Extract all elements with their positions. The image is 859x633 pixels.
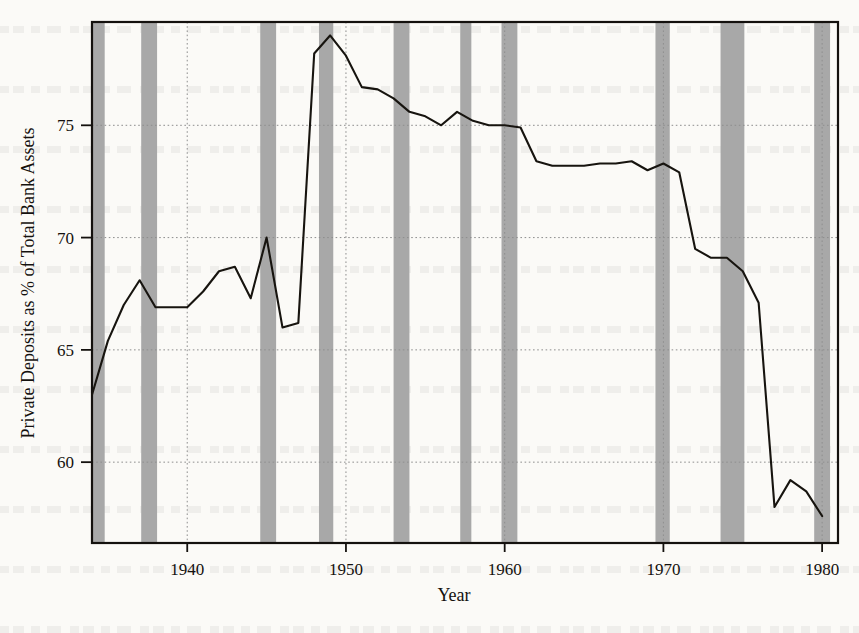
recession-band [655, 22, 669, 543]
x-tick-label: 1960 [488, 560, 522, 579]
axis-ticks-group [81, 125, 822, 552]
recession-band [141, 22, 157, 543]
line-chart: 1940195019601970198060657075 Year Privat… [0, 0, 859, 633]
y-axis-title: Private Deposits as % of Total Bank Asse… [18, 128, 38, 439]
recession-band [319, 22, 333, 543]
y-tick-label: 60 [57, 453, 74, 472]
series-line-private-deposits [92, 35, 822, 516]
recession-shading-group [92, 22, 830, 543]
x-axis-title: Year [437, 585, 470, 605]
x-tick-label: 1950 [329, 560, 363, 579]
y-tick-label: 65 [57, 341, 74, 360]
recession-band [721, 22, 745, 543]
recession-band [92, 22, 105, 543]
x-tick-label: 1940 [170, 560, 204, 579]
y-tick-label: 75 [57, 116, 74, 135]
data-series-line [92, 35, 822, 516]
figure-container: 1940195019601970198060657075 Year Privat… [0, 0, 859, 633]
recession-band [460, 22, 471, 543]
x-tick-label: 1980 [805, 560, 839, 579]
y-tick-label: 70 [57, 229, 74, 248]
recession-band [502, 22, 518, 543]
x-tick-label: 1970 [646, 560, 680, 579]
